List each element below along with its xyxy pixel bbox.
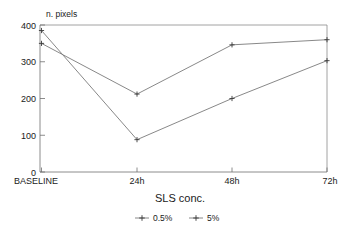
x-axis-title: SLS conc.	[155, 192, 205, 204]
x-tick-label-baseline: BASELINE	[14, 176, 58, 186]
plot-frame	[40, 25, 327, 172]
data-point-marker	[134, 91, 139, 96]
legend-marker-series-1	[193, 215, 199, 221]
series-0	[39, 28, 330, 142]
y-tick-label-400: 400	[21, 21, 36, 31]
series-line-0	[42, 31, 328, 140]
x-tick-label-24h: 24h	[129, 176, 144, 186]
series-1	[39, 37, 330, 97]
y-axis-label: n. pixels	[46, 9, 77, 19]
y-tick-label-100: 100	[21, 131, 36, 141]
data-point-marker	[324, 58, 329, 63]
x-tick-label-72h: 72h	[322, 176, 337, 186]
data-point-marker	[324, 37, 329, 42]
chart-container: 400 300 200 100 0 n. pixels BASELINE 24h…	[0, 0, 350, 231]
data-point-marker	[229, 96, 234, 101]
data-point-marker	[229, 42, 234, 47]
legend-label-series-1: 5%	[207, 213, 220, 223]
legend-marker-series-0	[139, 215, 145, 221]
y-axis-ticks	[40, 25, 45, 172]
series-layer	[39, 28, 330, 142]
legend-label-series-0: 0.5%	[153, 213, 173, 223]
y-tick-label-300: 300	[21, 57, 36, 67]
chart-legend: 0.5% 5%	[135, 213, 220, 223]
y-tick-label-200: 200	[21, 94, 36, 104]
series-line-1	[42, 40, 328, 94]
x-axis-ticks	[42, 168, 328, 173]
x-tick-label-48h: 48h	[224, 176, 239, 186]
line-chart: 400 300 200 100 0 n. pixels BASELINE 24h…	[0, 0, 350, 231]
